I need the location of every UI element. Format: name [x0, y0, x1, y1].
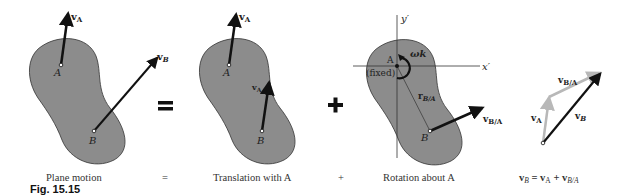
point-b-label: B — [88, 135, 96, 146]
x-axis-label: x′ — [482, 61, 491, 72]
origin-marker — [541, 141, 545, 145]
equals-operator — [158, 101, 173, 111]
caption-plane-motion: Plane motion — [46, 172, 102, 183]
caption-equals: = — [162, 172, 168, 183]
va-label: vA — [70, 11, 83, 24]
rigid-body — [29, 39, 125, 164]
rigid-body — [199, 39, 295, 164]
vb-arrow — [94, 58, 157, 131]
plus-operator — [328, 98, 343, 113]
caption-vector-equation: vB = vA + vB/A — [519, 172, 579, 185]
vba-label: vB/A — [482, 114, 503, 126]
y-axis-label: y′ — [400, 13, 410, 24]
vba-label: vB/A — [557, 75, 578, 87]
point-a-label: A — [386, 55, 394, 65]
vb-label: vB — [574, 111, 586, 123]
point-a-marker — [395, 64, 399, 68]
point-b-marker — [428, 129, 432, 133]
vb-label: vB — [156, 51, 169, 64]
point-b-marker — [260, 129, 264, 133]
figure-number: Fig. 15.15 — [30, 183, 80, 195]
caption-plus: + — [338, 172, 344, 183]
point-a-label: A — [53, 67, 61, 78]
va-label-top: vA — [238, 11, 251, 24]
point-b-label: B — [256, 135, 264, 146]
point-a-label: A — [222, 67, 230, 78]
point-b-marker — [92, 129, 96, 133]
panel-plane-motion — [29, 39, 125, 164]
va-label: vA — [530, 113, 542, 125]
plane-motion-diagram: A B vA vB A B vA vA y′ x′ A (fixed) ωk r… — [0, 0, 629, 196]
caption-translation: Translation with A — [213, 172, 292, 183]
point-b-label: B — [420, 132, 428, 143]
omega-k-label: ωk — [410, 48, 427, 59]
caption-rotation: Rotation about A — [383, 172, 455, 183]
panel-translation — [199, 39, 295, 164]
fixed-label: (fixed) — [366, 68, 395, 78]
